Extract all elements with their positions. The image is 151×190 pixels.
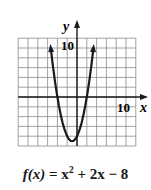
- equation-rest: + 2x − 8: [74, 166, 129, 182]
- equation-part: = x: [45, 166, 69, 182]
- x-axis-label: x: [139, 100, 147, 115]
- x-tick-label: 10: [117, 100, 130, 115]
- function-graph: y x 10 10: [0, 0, 151, 190]
- function-equation: f(x) = x2 + 2x − 8: [0, 164, 151, 183]
- y-axis-label: y: [61, 19, 70, 34]
- y-tick-label: 10: [61, 38, 74, 53]
- function-name: f(x): [23, 166, 46, 182]
